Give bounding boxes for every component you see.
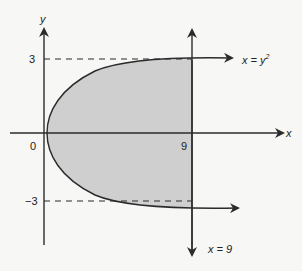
parabola-equation-exponent: 2	[266, 53, 270, 60]
diagram-canvas	[0, 0, 302, 271]
x-axis-label: x	[286, 128, 292, 139]
tick-label-y3: 3	[29, 54, 35, 65]
tick-label-yneg3: −3	[25, 196, 38, 207]
tick-label-origin: 0	[30, 141, 36, 152]
parabola-equation-text: x = y	[242, 54, 266, 66]
vertical-line-equation-label: x = 9	[208, 244, 232, 255]
parabola-equation-label: x = y2	[242, 53, 269, 66]
y-axis-label: y	[40, 14, 46, 25]
tick-label-x9: 9	[181, 141, 187, 152]
